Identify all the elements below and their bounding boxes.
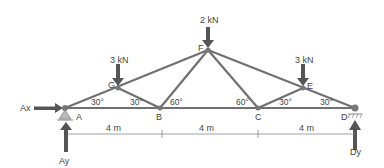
angle-label-B-right: 60° (170, 97, 183, 107)
angle-label-A: 30° (91, 97, 104, 107)
node-label-E: E (307, 81, 313, 91)
node-label-D: D (341, 112, 348, 122)
truss-diagram: 3 kN 2 kN 3 kN G F E A B C D Ax Ay Dy 30… (0, 0, 384, 168)
reaction-arrow-Ay (60, 122, 72, 152)
load-arrow-F (202, 27, 214, 48)
angle-label-D: 30° (320, 97, 333, 107)
reaction-label-Dy: Dy (350, 147, 361, 157)
node-label-A: A (76, 112, 82, 122)
node-label-G: G (108, 80, 115, 90)
joint-F (206, 48, 211, 53)
angle-label-B-left: 30° (130, 97, 143, 107)
joint-E (301, 86, 306, 91)
node-label-B: B (156, 112, 162, 122)
reaction-arrow-Ax (34, 103, 63, 113)
load-label-F: 2 kN (200, 15, 219, 25)
node-label-F: F (198, 43, 204, 53)
load-label-G: 3 kN (110, 55, 129, 65)
reaction-arrow-Dy (349, 120, 361, 150)
joint-D (352, 105, 359, 112)
joint-G (116, 86, 121, 91)
joint-C (256, 106, 261, 111)
roller-support-D (348, 114, 362, 118)
dimension-label-3: 4 m (299, 123, 314, 133)
reaction-label-Ax: Ax (20, 103, 31, 113)
angle-label-C-left: 60° (236, 97, 249, 107)
reaction-label-Ay: Ay (59, 156, 70, 166)
load-label-E: 3 kN (295, 55, 314, 65)
joint-B (158, 106, 163, 111)
node-label-C: C (255, 112, 262, 122)
dimension-label-1: 4 m (106, 123, 121, 133)
angle-label-C-right: 30° (279, 97, 292, 107)
joints (62, 48, 359, 112)
pin-support-A (57, 110, 73, 120)
dimension-label-2: 4 m (199, 123, 214, 133)
